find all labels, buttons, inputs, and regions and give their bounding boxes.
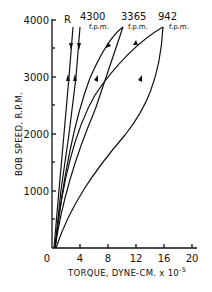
x-axis-title: TORQUE, DYNE-CM. x 10-5 [67,266,186,278]
curve-3365-up [55,27,123,248]
arrow-up-icon [138,75,142,82]
label-942: 942 [158,11,177,22]
y-tick-2000: 2000 [24,129,49,140]
x-tick-8: 8 [105,253,111,264]
label-4300: 4300 [80,11,105,22]
curve-942-up [56,27,163,248]
curve-3365-down [55,27,123,248]
x-tick-4: 4 [77,253,83,264]
y-tick-labels: 4000 3000 2000 1000 [24,15,49,197]
annotations: R 4300 f.p.m. 3365 f.p.m. 942 f.p.m. [64,11,189,31]
x-tick-0: 0 [44,253,50,264]
label-942-unit: f.p.m. [169,23,189,31]
label-3365: 3365 [121,11,146,22]
label-3365-unit: f.p.m. [128,23,148,31]
y-tick-4000: 4000 [24,15,49,26]
arrow-up-icon [94,75,98,82]
arrow-down-icon [69,43,73,50]
y-axis-title: BOB SPEED, R.P.M. [14,92,24,176]
label-4300-unit: f.p.m. [89,23,109,31]
y-tick-3000: 3000 [24,72,49,83]
x-tick-labels: 0 4 8 12 16 20 [44,253,199,264]
curves [54,27,163,248]
x-tick-12: 12 [130,253,143,264]
curve-942-down [55,27,163,248]
chart: 4000 3000 2000 1000 0 4 8 12 16 20 TORQU… [0,0,212,292]
x-tick-20: 20 [186,253,199,264]
label-r: R [64,14,71,25]
arrow-down-icon [133,40,138,45]
arrow-down-icon [77,43,81,50]
x-tick-16: 16 [158,253,171,264]
y-tick-1000: 1000 [24,186,49,197]
